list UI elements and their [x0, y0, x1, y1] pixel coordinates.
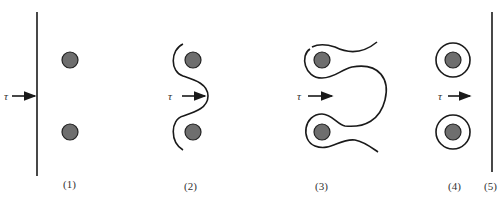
- panel-5: (5): [484, 12, 497, 193]
- stress-symbol: τ: [438, 90, 443, 102]
- panel-label: (3): [315, 180, 328, 193]
- particle-bottom: [445, 124, 461, 140]
- particle-top: [314, 52, 330, 68]
- particle-bottom: [185, 124, 201, 140]
- panel-label: (5): [484, 180, 497, 193]
- particle-bottom: [314, 124, 330, 140]
- particle-bottom: [62, 124, 78, 140]
- panel-label: (2): [184, 180, 197, 193]
- panel-label: (4): [448, 180, 461, 193]
- stress-symbol: τ: [168, 90, 173, 102]
- panel-2: τ (2): [168, 44, 208, 193]
- diagram-canvas: τ (1) τ (2) τ (3): [0, 0, 502, 198]
- stress-symbol: τ: [4, 90, 9, 102]
- particle-top: [185, 52, 201, 68]
- upper-dislocation-segment: [312, 42, 377, 52]
- panel-3: τ (3): [297, 42, 386, 193]
- panel-1: τ (1): [4, 12, 78, 191]
- panel-label: (1): [63, 178, 76, 191]
- orowan-mechanism-diagram: τ (1) τ (2) τ (3): [0, 0, 502, 198]
- particle-top: [62, 52, 78, 68]
- particle-top: [445, 52, 461, 68]
- panel-4: τ (4): [436, 43, 470, 193]
- stress-symbol: τ: [297, 90, 302, 102]
